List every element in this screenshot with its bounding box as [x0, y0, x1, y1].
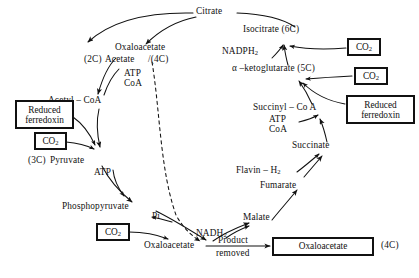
label-2c: (2C): [84, 55, 102, 65]
label-phosphopyruvate: Phosphopyruvate: [62, 202, 129, 212]
label-flavin-h2-sub: 2: [277, 168, 280, 175]
arrow-succinylcoa-to-ketoglutarate: [299, 81, 312, 104]
arrow-citrate-to-acetate: [88, 13, 193, 42]
label-pi: Pi: [152, 212, 160, 222]
label-flavin-h2-text: Flavin – H: [236, 165, 277, 175]
box-reduced-ferredoxin-left: Reducedferredoxin: [15, 100, 74, 129]
label-fumarate: Fumarate: [260, 181, 296, 191]
label-acetate: Acetate: [105, 55, 134, 65]
box-oxaloacetate-product-text: Oxaloacetate: [299, 241, 348, 251]
label-alpha-ketoglutarate: α –ketoglutarate (5C): [232, 64, 315, 74]
reverse-tca-cycle-diagram: Citrate Isocitrate (6C) NADPH2 α –ketogl…: [0, 0, 419, 278]
label-citrate: Citrate: [196, 7, 222, 17]
label-isocitrate: Isocitrate (6C): [243, 25, 299, 35]
box-co2-pyruvate-sub: 2: [55, 139, 58, 146]
box-reduced-ferredoxin-left-line1: Reduced: [28, 105, 61, 115]
box-reduced-ferredoxin-right-line2: ferredoxin: [361, 110, 400, 120]
arrow-ketoglutarate-to-isocitrate: [284, 45, 288, 65]
box-co2-isocitrate-text: CO: [356, 42, 369, 52]
box-co2-pyruvate-text: CO: [42, 136, 55, 146]
label-atp-pyruvate: ATP: [94, 168, 111, 178]
label-oxaloacetate-top: Oxaloacetate: [115, 43, 165, 53]
line-atp-pyruvate-feed: [113, 170, 124, 196]
arrow-co2-to-pyruvate: [66, 142, 94, 149]
box-co2-ketoglutarate: CO2: [354, 67, 388, 85]
label-coa-left: CoA: [124, 79, 142, 89]
label-4c-bottom: (4C): [381, 241, 399, 251]
arrow-acetylcoa-to-pyruvate: [97, 109, 100, 147]
box-co2-isocitrate: CO2: [347, 38, 381, 56]
box-reduced-ferredoxin-right: Reducedferredoxin: [346, 95, 415, 124]
label-oxaloacetate-bottom: Oxaloacetate: [144, 241, 194, 251]
box-co2-isocitrate-sub: 2: [369, 45, 372, 52]
box-co2-pyruvate: CO2: [34, 132, 67, 150]
arrow-ferredoxin-left-to-pyruvate: [73, 117, 95, 145]
label-4c-top: /(4C): [148, 55, 168, 65]
label-flavin-h2: Flavin – H2: [236, 166, 281, 176]
label-coa-right: CoA: [269, 125, 287, 135]
box-co2-phosphopyruvate-text: CO: [105, 227, 118, 237]
arrow-ferredoxin-right-to-ketoglutarate: [303, 83, 345, 104]
label-3c: (3C): [28, 156, 46, 166]
arrow-succinate-to-succinylcoa: [320, 119, 327, 142]
label-nadph2-text: NADPH: [222, 46, 255, 56]
box-reduced-ferredoxin-left-line2: ferredoxin: [25, 115, 64, 125]
box-co2-ketoglutarate-text: CO: [363, 71, 376, 81]
box-co2-ketoglutarate-sub: 2: [376, 74, 379, 81]
arrow-co2-to-oxaloacetate: [129, 232, 168, 239]
label-nadph2-sub: 2: [255, 49, 258, 56]
label-malate: Malate: [243, 213, 270, 223]
label-pyruvate: Pyruvate: [50, 156, 84, 166]
arrow-co2-to-ketoglutarate: [306, 76, 352, 79]
label-succinyl-coa: Succinyl – Co A: [253, 103, 316, 113]
line-nadph2-feed: [272, 45, 283, 58]
label-nadph2: NADPH2: [222, 47, 258, 57]
box-co2-phosphopyruvate-sub: 2: [118, 230, 121, 237]
box-reduced-ferredoxin-right-line1: Reduced: [364, 100, 397, 110]
arrow-co2-to-isocitrate: [290, 46, 346, 49]
label-succinate: Succinate: [292, 141, 330, 151]
box-oxaloacetate-product: Oxaloacetate: [272, 237, 374, 256]
label-product-removed-line1: Product: [218, 236, 248, 246]
arrow-citrate-to-oxaloacetate: [146, 17, 196, 44]
arrow-malate-to-fumarate: [272, 190, 297, 220]
box-co2-phosphopyruvate: CO2: [96, 223, 130, 241]
label-product-removed-line2: removed: [216, 249, 250, 259]
line-atp-coa-right-feed: [299, 115, 318, 122]
